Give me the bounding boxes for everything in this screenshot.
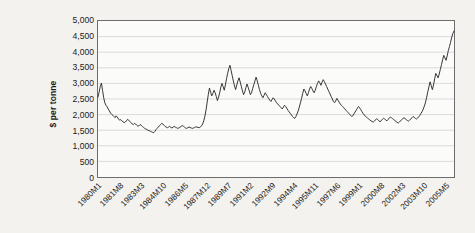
data-series-line	[98, 21, 454, 177]
x-axis-tick-label: 1984M10	[21, 181, 169, 233]
y-axis-tick-label: 3,500	[60, 62, 94, 72]
price-line-chart: $ per tonne 05001,0001,5002,0002,5003,00…	[0, 0, 475, 233]
x-axis-tick-label: 1989M7	[86, 181, 234, 233]
x-axis-tick-label: 1997M6	[195, 181, 343, 233]
y-axis-tick-label: 4,500	[60, 31, 94, 41]
plot-area	[97, 20, 455, 178]
y-axis-tick-labels: 05001,0001,5002,0002,5003,0003,5004,0004…	[58, 0, 94, 233]
y-axis-tick-label: 4,000	[60, 47, 94, 57]
x-axis-tick-label: 1995M11	[173, 181, 321, 233]
x-axis-tick-label: 2000M8	[238, 181, 386, 233]
x-axis-tick-label: 1991M2	[108, 181, 256, 233]
y-axis-tick-label: 3,000	[60, 78, 94, 88]
x-axis-tick-label: 2002M3	[260, 181, 408, 233]
x-axis-tick-label: 1999M1	[216, 181, 364, 233]
y-axis-tick-label: 5,000	[60, 15, 94, 25]
x-axis-tick-label: 1994M4	[151, 181, 299, 233]
y-axis-tick-label: 2,000	[60, 110, 94, 120]
y-axis-tick-label: 2,500	[60, 94, 94, 104]
y-axis-tick-label: 1,500	[60, 126, 94, 136]
x-axis-tick-label: 2003M10	[282, 181, 430, 233]
x-axis-tick-label: 1992M9	[129, 181, 277, 233]
y-axis-tick-label: 500	[60, 157, 94, 167]
y-axis-tick-label: 0	[60, 173, 94, 183]
x-axis-tick-label: 2005M5	[303, 181, 451, 233]
y-axis-tick-label: 1,000	[60, 141, 94, 151]
